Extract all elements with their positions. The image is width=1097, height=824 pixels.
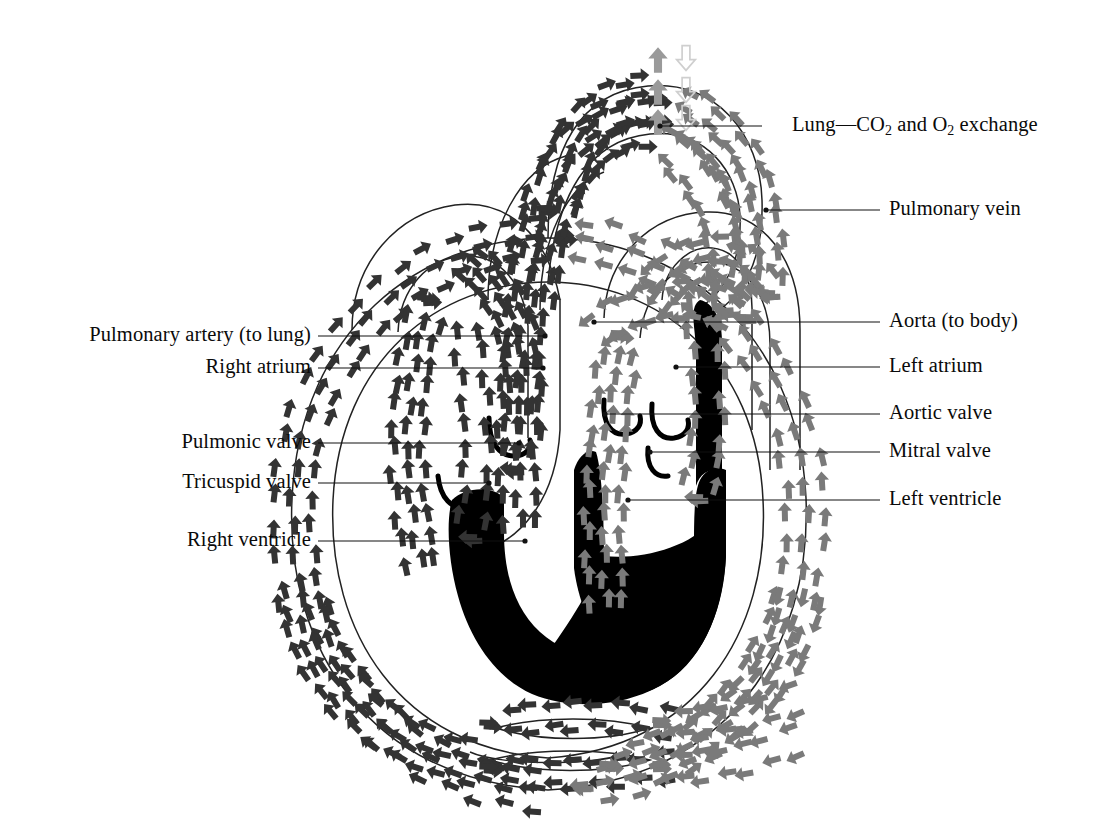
flow-arrow	[817, 507, 833, 527]
flow-arrow	[724, 106, 748, 130]
label-right-ventricle: Right ventricle	[0, 529, 311, 550]
flow-arrow	[623, 345, 642, 367]
flow-arrow	[455, 366, 471, 386]
flow-arrow	[760, 751, 782, 770]
flow-arrow	[354, 305, 377, 329]
right-atrium-anchor-dot	[540, 365, 545, 370]
flow-arrow	[396, 556, 414, 578]
flow-arrow	[793, 446, 810, 467]
flow-arrow	[414, 397, 431, 418]
flow-arrow	[307, 566, 324, 587]
flow-arrow	[573, 229, 595, 247]
flow-arrow	[795, 387, 816, 410]
flow-arrow	[639, 140, 658, 154]
flow-arrow	[602, 214, 625, 234]
flow-arrow	[610, 484, 626, 504]
flow-arrow	[454, 458, 470, 478]
flow-arrow	[710, 229, 729, 244]
flow-arrow	[438, 774, 461, 795]
flow-arrow	[764, 367, 786, 391]
flow-arrow	[456, 412, 473, 433]
flow-arrow	[415, 310, 433, 332]
flow-arrow	[475, 339, 491, 359]
flow-arrow	[382, 464, 398, 485]
flow-arrow	[404, 529, 420, 549]
right-ventricle-anchor-dot	[522, 538, 527, 543]
flow-arrow	[279, 397, 298, 419]
flow-arrow	[593, 237, 616, 257]
pulmonary-vein-anchor-dot	[763, 207, 768, 212]
flow-arrow	[309, 544, 325, 564]
flow-arrow	[608, 365, 624, 385]
flow-arrow	[469, 321, 486, 342]
flow-arrow	[411, 439, 426, 459]
flow-arrow	[648, 47, 667, 73]
flow-arrow	[444, 229, 466, 249]
flow-arrow	[458, 731, 479, 748]
flow-arrow	[628, 700, 649, 718]
flow-arrow	[520, 725, 541, 742]
label-pulmonary-vein: Pulmonary vein	[889, 198, 1021, 219]
flow-arrow	[522, 762, 543, 779]
pulmonic-valve-anchor-dot	[516, 440, 521, 445]
flow-arrow	[784, 747, 807, 768]
flow-arrow	[795, 477, 810, 496]
flow-arrow	[584, 423, 602, 444]
flow-arrow	[566, 250, 588, 268]
flow-arrow	[363, 270, 387, 294]
flow-arrow	[493, 792, 515, 811]
myocardium-muscle	[449, 300, 726, 704]
flow-arrow	[447, 347, 463, 367]
flow-arrow	[522, 804, 542, 820]
flow-arrow	[781, 480, 796, 500]
flow-arrow	[794, 533, 810, 553]
flow-arrow	[527, 462, 543, 482]
flow-arrow	[717, 764, 738, 781]
flow-arrow	[745, 376, 767, 400]
flow-arrow	[599, 791, 620, 808]
flow-arrow	[745, 134, 768, 158]
aorta-anchor-dot	[591, 319, 596, 324]
flow-arrow	[813, 446, 831, 468]
flow-arrow	[435, 276, 458, 297]
flow-arrow	[761, 623, 781, 646]
diagram-canvas: Lung—CO2 and O2 exchangePulmonary veinAo…	[0, 0, 1097, 824]
flow-arrow	[352, 341, 374, 365]
flow-arrow	[479, 464, 494, 483]
label-aortic-valve: Aortic valve	[889, 402, 992, 423]
deoxygenated-blood-arrows	[266, 68, 680, 820]
flow-arrow	[409, 352, 426, 373]
flow-arrow	[424, 763, 446, 782]
flow-arrow	[475, 369, 490, 388]
label-pulmonic-valve: Pulmonic valve	[0, 431, 311, 452]
left-atrium-anchor-dot	[673, 364, 678, 369]
flow-arrow	[482, 386, 498, 406]
flow-arrow	[449, 320, 465, 340]
flow-arrow	[631, 785, 653, 804]
flow-arrow	[592, 255, 614, 274]
flow-arrow	[769, 426, 788, 448]
flow-arrow	[674, 170, 697, 194]
flow-arrow	[774, 554, 791, 575]
flow-arrow	[305, 490, 320, 509]
flow-arrow	[415, 547, 432, 568]
flow-arrow	[384, 419, 399, 438]
flow-arrow	[414, 481, 431, 502]
flow-arrow	[611, 524, 627, 544]
flow-arrow	[620, 407, 635, 426]
flow-arrow	[601, 443, 618, 464]
flow-arrow	[422, 356, 438, 376]
flow-arrow	[795, 560, 811, 580]
flow-arrow	[309, 436, 328, 458]
mitral-valve-anchor-dot	[647, 449, 652, 454]
flow-arrow	[801, 504, 817, 524]
label-mitral-valve: Mitral valve	[889, 440, 991, 461]
left-ventricle-anchor-dot	[625, 497, 630, 502]
flow-arrow	[573, 216, 594, 233]
flow-arrow	[398, 415, 414, 435]
flow-arrow	[625, 228, 648, 249]
flow-arrow	[417, 415, 434, 436]
label-left-ventricle: Left ventricle	[889, 488, 1001, 509]
flow-arrow	[529, 486, 544, 506]
flow-arrow	[423, 332, 440, 353]
